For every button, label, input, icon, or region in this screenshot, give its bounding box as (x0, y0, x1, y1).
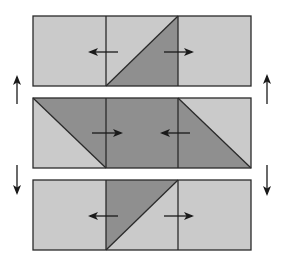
panel-middle (33, 98, 251, 168)
shear-diagram (0, 0, 281, 263)
panel-top (33, 16, 251, 86)
panel-bottom (33, 180, 251, 250)
panels (33, 16, 251, 250)
